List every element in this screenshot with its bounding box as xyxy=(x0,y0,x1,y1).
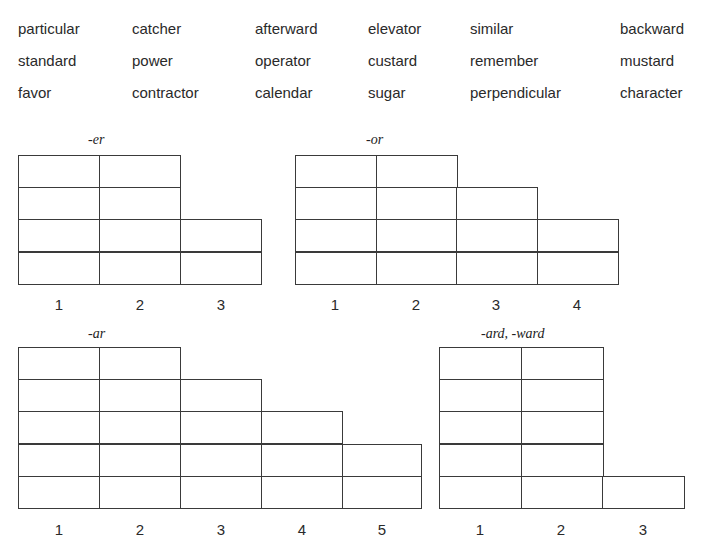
word-bank-item: favor xyxy=(18,84,51,101)
chart-cell[interactable] xyxy=(261,411,343,444)
chart-cell[interactable] xyxy=(456,252,538,285)
chart-cell[interactable] xyxy=(18,476,100,509)
word-bank-item: power xyxy=(132,52,173,69)
chart-title: -ar xyxy=(88,326,105,342)
chart-cell[interactable] xyxy=(521,444,604,477)
word-bank-item: particular xyxy=(18,20,80,37)
chart-cell[interactable] xyxy=(439,411,522,444)
chart-cell[interactable] xyxy=(180,219,262,252)
chart-cell[interactable] xyxy=(376,252,458,285)
column-label: 3 xyxy=(633,521,653,538)
chart-title: -ard, -ward xyxy=(481,326,545,342)
chart-cell[interactable] xyxy=(99,411,181,444)
chart-cell[interactable] xyxy=(295,219,377,252)
chart-cell[interactable] xyxy=(521,347,604,380)
column-label: 2 xyxy=(130,296,150,313)
chart-cell[interactable] xyxy=(342,444,422,477)
column-label: 2 xyxy=(130,521,150,538)
chart-cell[interactable] xyxy=(521,379,604,412)
chart-cell[interactable] xyxy=(99,476,181,509)
word-bank-item: operator xyxy=(255,52,311,69)
chart-cell[interactable] xyxy=(99,444,181,477)
word-bank-item: similar xyxy=(470,20,513,37)
chart-cell[interactable] xyxy=(99,155,181,188)
chart-cell[interactable] xyxy=(99,252,181,285)
chart-cell[interactable] xyxy=(342,476,422,509)
chart-cell[interactable] xyxy=(537,252,619,285)
column-label: 4 xyxy=(567,296,587,313)
chart-cell[interactable] xyxy=(521,411,604,444)
column-label: 1 xyxy=(49,296,69,313)
chart-cell[interactable] xyxy=(99,219,181,252)
column-label: 5 xyxy=(372,521,392,538)
chart-cell[interactable] xyxy=(18,187,100,220)
word-bank-item: sugar xyxy=(368,84,406,101)
chart-cell[interactable] xyxy=(456,219,538,252)
chart-cell[interactable] xyxy=(180,379,262,412)
word-bank-item: remember xyxy=(470,52,538,69)
word-bank-item: contractor xyxy=(132,84,199,101)
chart-cell[interactable] xyxy=(180,444,262,477)
word-bank-item: elevator xyxy=(368,20,421,37)
column-label: 2 xyxy=(551,521,571,538)
column-label: 1 xyxy=(49,521,69,538)
chart-title: -or xyxy=(366,132,383,148)
chart-cell[interactable] xyxy=(456,187,538,220)
column-label: 3 xyxy=(486,296,506,313)
chart-title: -er xyxy=(88,132,104,148)
chart-cell[interactable] xyxy=(180,411,262,444)
word-bank-item: catcher xyxy=(132,20,181,37)
word-bank-item: standard xyxy=(18,52,76,69)
column-label: 2 xyxy=(406,296,426,313)
chart-cell[interactable] xyxy=(99,379,181,412)
column-label: 3 xyxy=(211,296,231,313)
word-bank-item: calendar xyxy=(255,84,313,101)
chart-cell[interactable] xyxy=(376,219,458,252)
chart-cell[interactable] xyxy=(376,187,458,220)
chart-cell[interactable] xyxy=(18,347,100,380)
column-label: 4 xyxy=(292,521,312,538)
chart-cell[interactable] xyxy=(99,347,181,380)
chart-cell[interactable] xyxy=(602,476,685,509)
column-label: 3 xyxy=(211,521,231,538)
chart-cell[interactable] xyxy=(537,219,619,252)
chart-cell[interactable] xyxy=(18,252,100,285)
chart-cell[interactable] xyxy=(180,252,262,285)
chart-cell[interactable] xyxy=(261,444,343,477)
chart-cell[interactable] xyxy=(180,476,262,509)
column-label: 1 xyxy=(470,521,490,538)
chart-cell[interactable] xyxy=(18,219,100,252)
chart-cell[interactable] xyxy=(18,444,100,477)
chart-cell[interactable] xyxy=(295,187,377,220)
word-bank-item: custard xyxy=(368,52,417,69)
chart-cell[interactable] xyxy=(295,252,377,285)
chart-cell[interactable] xyxy=(439,379,522,412)
chart-cell[interactable] xyxy=(18,411,100,444)
chart-cell[interactable] xyxy=(439,444,522,477)
chart-cell[interactable] xyxy=(18,379,100,412)
chart-cell[interactable] xyxy=(521,476,604,509)
chart-cell[interactable] xyxy=(439,476,522,509)
chart-cell[interactable] xyxy=(261,476,343,509)
chart-cell[interactable] xyxy=(376,155,458,188)
word-bank-item: perpendicular xyxy=(470,84,561,101)
chart-cell[interactable] xyxy=(99,187,181,220)
word-bank-item: backward xyxy=(620,20,684,37)
word-bank-item: mustard xyxy=(620,52,674,69)
chart-cell[interactable] xyxy=(439,347,522,380)
word-bank-item: afterward xyxy=(255,20,318,37)
word-bank-item: character xyxy=(620,84,683,101)
chart-cell[interactable] xyxy=(18,155,100,188)
chart-cell[interactable] xyxy=(295,155,377,188)
column-label: 1 xyxy=(325,296,345,313)
